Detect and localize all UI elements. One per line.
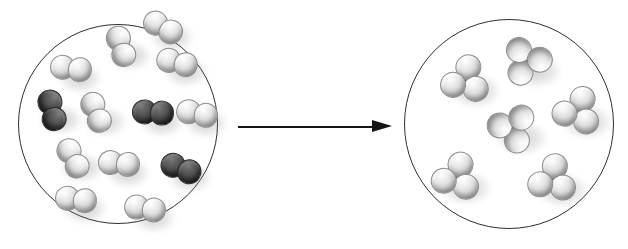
reaction-diagram	[0, 0, 628, 249]
light-diatomic-molecule	[53, 184, 98, 214]
product-molecule	[544, 78, 612, 146]
light-diatomic-molecule	[122, 192, 168, 224]
light-diatomic-molecule	[103, 22, 140, 70]
light-atom	[461, 75, 491, 105]
product-molecule	[435, 50, 497, 112]
light-diatomic-molecule	[97, 148, 142, 177]
light-diatomic-molecule	[153, 45, 200, 79]
light-atom	[549, 174, 578, 203]
dark-diatomic-molecule	[157, 149, 206, 188]
product-molecule	[424, 145, 489, 210]
light-diatomic-molecule	[52, 133, 94, 182]
arrow-shaft	[238, 126, 375, 128]
dark-diatomic-molecule	[35, 86, 69, 133]
light-diatomic-molecule	[174, 96, 221, 129]
reactants-container	[18, 24, 218, 224]
light-diatomic-molecule	[138, 6, 187, 49]
dark-atom	[148, 99, 174, 125]
light-diatomic-molecule	[48, 53, 93, 83]
products-container	[404, 19, 614, 229]
reaction-arrow	[238, 119, 392, 135]
product-molecule	[523, 150, 583, 210]
arrow-head-icon	[372, 120, 392, 132]
product-molecule	[492, 26, 563, 97]
dark-diatomic-molecule	[131, 98, 175, 126]
light-diatomic-molecule	[77, 88, 116, 137]
